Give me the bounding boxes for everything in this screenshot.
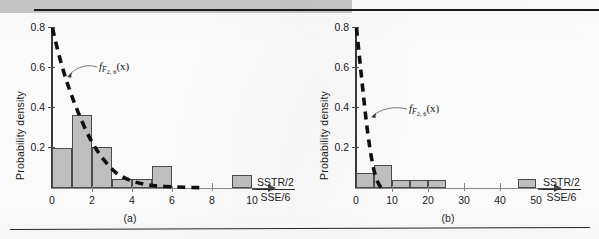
- curve-subscript-b: F2, 6: [412, 107, 426, 116]
- annotation-leader-line-b: [372, 108, 408, 117]
- density-curve-a: [0, 0, 300, 239]
- curve-sub-df-a: 2, 6: [107, 68, 117, 75]
- curve-annotation-label-b: fF2, 6(x): [409, 102, 439, 117]
- f-density-dashed-path-b: [357, 28, 383, 188]
- curve-arg-b: (x): [426, 102, 439, 114]
- curve-arg-a: (x): [116, 60, 129, 72]
- chart-panel-b: 0.8 0.6 0.4 0.2 Probability density 0 10…: [293, 0, 599, 239]
- chart-panel-a: 0.8 0.6 0.4 0.2 Probability density 0 2 …: [0, 0, 300, 239]
- annotation-leader-line-a: [68, 66, 98, 77]
- panel-caption-b: (b): [423, 212, 473, 224]
- annotation-arrow-b: [372, 113, 377, 118]
- curve-annotation-label-a: fF2, 6(x): [99, 60, 129, 75]
- density-curve-b: [293, 0, 599, 239]
- curve-sub-df-b: 2, 6: [417, 110, 427, 117]
- curve-subscript-a: F2, 6: [102, 65, 116, 74]
- panel-caption-a: (a): [105, 212, 155, 224]
- f-density-dashed-path-a: [53, 28, 201, 188]
- annotation-arrow-a: [68, 73, 72, 78]
